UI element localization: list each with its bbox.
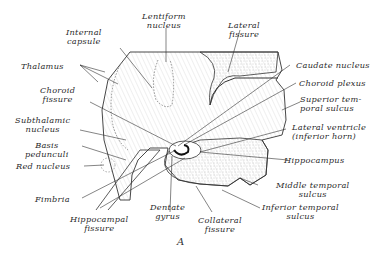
figure-caption: A: [177, 236, 184, 247]
label-line: poral sulcus: [300, 104, 362, 113]
label-basis-pedunculi: Basis pedunculi: [25, 141, 69, 158]
brain-coronal-section-diagram: Internal capsule Lentiform nucleus Later…: [0, 0, 389, 266]
label-superior-temporal-sulcus: Superior tem- poral sulcus: [300, 95, 362, 112]
label-middle-temporal-sulcus: Middle temporal sulcus: [276, 181, 350, 198]
label-line: sulcus: [276, 190, 350, 199]
label-lentiform-nucleus: Lentiform nucleus: [142, 12, 186, 29]
label-hippocampal-fissure: Hippocampal fissure: [70, 215, 128, 232]
label-line: nucleus: [15, 125, 70, 134]
label-line: (inferior horn): [292, 132, 366, 141]
label-line: fissure: [198, 225, 242, 234]
label-line: fissure: [228, 30, 260, 39]
label-choroid-plexus: Choroid plexus: [299, 79, 366, 88]
label-line: fissure: [40, 95, 75, 104]
label-hippocampus: Hippocampus: [284, 156, 344, 165]
label-lateral-fissure: Lateral fissure: [228, 21, 260, 38]
hippocampus-shape: [169, 141, 201, 159]
label-dentate-gyrus: Dentate gyrus: [150, 203, 185, 220]
label-choroid-fissure: Choroid fissure: [40, 86, 75, 103]
label-thalamus: Thalamus: [21, 62, 64, 71]
label-inferior-temporal-sulcus: Inferior temporal sulcus: [262, 203, 339, 220]
label-internal-capsule: Internal capsule: [66, 28, 102, 45]
label-line: capsule: [66, 37, 102, 46]
label-lateral-ventricle: Lateral ventricle (inferior horn): [292, 123, 366, 140]
label-caudate-nucleus: Caudate nucleus: [296, 61, 370, 70]
label-subthalamic-nucleus: Subthalamic nucleus: [15, 116, 70, 133]
label-line: sulcus: [262, 212, 339, 221]
label-collateral-fissure: Collateral fissure: [198, 216, 242, 233]
label-line: pedunculi: [25, 150, 69, 159]
label-red-nucleus: Red nucleus: [16, 162, 70, 171]
label-fimbria: Fimbria: [35, 195, 70, 204]
label-line: nucleus: [142, 21, 186, 30]
label-line: fissure: [70, 224, 128, 233]
label-line: gyrus: [150, 212, 185, 221]
